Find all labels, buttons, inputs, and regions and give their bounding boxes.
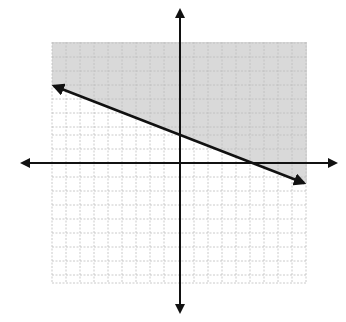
coordinate-plane bbox=[0, 0, 346, 322]
